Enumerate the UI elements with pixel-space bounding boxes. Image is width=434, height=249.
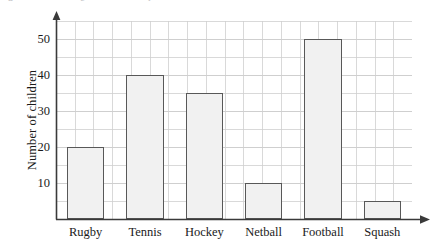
- x-axis-tick-label-tennis: Tennis: [115, 222, 174, 242]
- y-axis-tick-label: 20: [4, 141, 50, 153]
- bar-squash: [364, 201, 401, 219]
- y-axis-tick-label: 50: [4, 33, 50, 45]
- figure-page: a e r Number of children 1020304050 Rugb…: [0, 0, 434, 249]
- bar-netball: [245, 183, 282, 219]
- y-axis-arrow-icon: [53, 11, 61, 20]
- bar-series: [56, 21, 412, 219]
- bar-chart: Number of children 1020304050 RugbyTenni…: [0, 0, 434, 249]
- x-axis-tick-label-netball: Netball: [234, 222, 293, 242]
- bar-hockey: [186, 93, 223, 219]
- x-axis-tick-label-football: Football: [293, 222, 352, 242]
- x-axis-tick-label-squash: Squash: [353, 222, 412, 242]
- y-axis-tick-labels: 1020304050: [0, 0, 50, 249]
- x-axis-arrow-icon: [420, 215, 430, 223]
- y-axis-tick-label: 30: [4, 105, 50, 117]
- bar-rugby: [67, 147, 104, 219]
- bar-tennis: [126, 75, 163, 219]
- x-axis-tick-labels: RugbyTennisHockeyNetballFootballSquash: [56, 222, 412, 244]
- x-axis-tick-label-hockey: Hockey: [175, 222, 234, 242]
- y-axis-tick-label: 10: [4, 177, 50, 189]
- x-axis-tick-label-rugby: Rugby: [56, 222, 115, 242]
- bar-football: [304, 39, 341, 219]
- y-axis-tick-label: 40: [4, 69, 50, 81]
- plot-area: [56, 21, 412, 219]
